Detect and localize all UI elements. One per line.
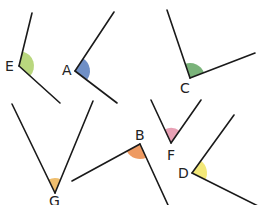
angle-ray bbox=[167, 10, 190, 78]
angle-e bbox=[19, 13, 60, 103]
angle-label-e: E bbox=[5, 59, 14, 73]
angle-label-f: F bbox=[167, 148, 175, 162]
angle-ray bbox=[151, 100, 171, 143]
angle-g bbox=[12, 101, 93, 193]
angle-ray bbox=[75, 12, 114, 71]
angles-diagram: EACGBFD bbox=[0, 0, 258, 205]
angle-ray bbox=[190, 53, 255, 78]
angle-label-d: D bbox=[178, 166, 189, 180]
angle-d bbox=[192, 115, 258, 205]
angle-c bbox=[167, 10, 255, 78]
angle-a bbox=[75, 12, 117, 103]
angle-f bbox=[151, 100, 201, 143]
angles-canvas bbox=[0, 0, 258, 205]
angle-label-c: C bbox=[180, 81, 190, 95]
angle-label-b: B bbox=[135, 128, 145, 142]
angle-ray bbox=[140, 144, 168, 205]
angle-label-g: G bbox=[49, 194, 60, 205]
angle-b bbox=[72, 144, 168, 205]
angle-ray bbox=[192, 115, 234, 173]
angle-ray bbox=[72, 144, 140, 181]
angle-ray bbox=[75, 71, 117, 103]
angle-ray bbox=[12, 104, 55, 193]
angle-label-a: A bbox=[62, 63, 72, 77]
angle-ray bbox=[19, 66, 60, 103]
angle-ray bbox=[171, 100, 201, 143]
angle-ray bbox=[192, 173, 258, 205]
